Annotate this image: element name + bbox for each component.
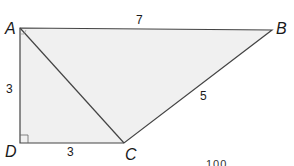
vertex-label-d: D — [5, 143, 17, 161]
side-length-bc: 5 — [200, 89, 207, 103]
side-length-dc: 3 — [67, 145, 74, 159]
trapezoid-shape — [20, 28, 272, 143]
vertex-label-c: C — [125, 146, 137, 164]
trapezoid-diagram — [0, 0, 294, 166]
vertex-label-b: B — [276, 20, 287, 38]
partial-text: 100 — [206, 158, 227, 166]
side-length-ad: 3 — [6, 82, 13, 96]
side-length-ab: 7 — [136, 13, 143, 27]
vertex-label-a: A — [5, 20, 16, 38]
